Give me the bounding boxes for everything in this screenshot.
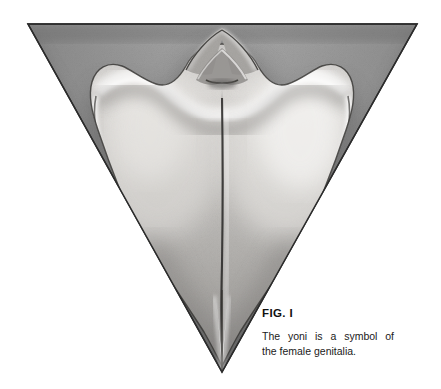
figure-caption-text: The yoni is a symbol of the female genit… <box>262 329 394 359</box>
figure-label: FIG. I <box>262 307 394 320</box>
figure-page: FIG. I The yoni is a symbol of the femal… <box>0 0 441 389</box>
caption-line-1: The yoni is a symbol of <box>262 329 394 344</box>
caption-line-2: the female genitalia. <box>262 344 394 359</box>
figure-caption-block: FIG. I The yoni is a symbol of the femal… <box>262 307 394 359</box>
